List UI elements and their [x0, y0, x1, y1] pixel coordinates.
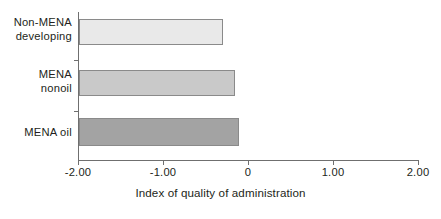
category-label-mena-oil: MENA oil — [24, 126, 72, 140]
x-axis-tick-label: 2.00 — [407, 166, 430, 179]
x-axis-title: Index of quality of administration — [0, 186, 441, 199]
bar-mena-oil — [79, 118, 239, 146]
y-axis-tick — [74, 60, 78, 61]
x-axis-tick — [418, 160, 419, 165]
x-axis-tick — [78, 160, 79, 165]
x-axis-tick-label: -2.00 — [65, 166, 92, 179]
y-axis-tick — [74, 111, 78, 112]
category-label-mena-nonoil: MENA nonoil — [39, 68, 72, 95]
plot-area — [78, 12, 418, 160]
bar-chart: Non-MENA developing MENA nonoil MENA oil… — [0, 0, 441, 219]
bar-non-mena-developing — [79, 19, 223, 45]
bar-mena-nonoil — [79, 70, 235, 96]
category-label-non-mena-developing: Non-MENA developing — [14, 16, 72, 43]
x-axis-tick — [248, 160, 249, 165]
x-axis-tick-label: -1.00 — [150, 166, 177, 179]
x-axis-tick-label: 1.00 — [322, 166, 345, 179]
x-axis-tick — [333, 160, 334, 165]
x-axis-tick-label: 0 — [245, 166, 251, 179]
x-axis-tick — [163, 160, 164, 165]
category-axis-labels: Non-MENA developing MENA nonoil MENA oil — [0, 0, 72, 160]
